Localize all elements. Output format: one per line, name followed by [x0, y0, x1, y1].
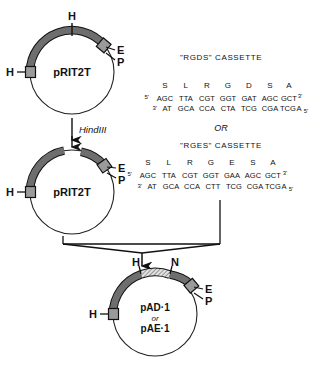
cassette-rgds-bottom-strand: 3' AT GCA CCA CTA TCG CGA TCG A 5': [153, 104, 309, 114]
plasmid-bottom-p-leader: [194, 293, 203, 299]
figure-plasmid-cassette-construction: H H E P pRIT2T HindIII H: [0, 0, 311, 366]
rges-top-codon-2: CGT: [182, 171, 198, 180]
rges-top-codon-1: TTA: [162, 171, 176, 180]
rgds-bot-codon-7: A: [296, 104, 301, 113]
bracket-v-right: [142, 244, 220, 253]
rgds-top-codon-1: TTA: [179, 94, 193, 103]
rgds-top-codon-3: GGT: [220, 94, 237, 103]
aa-rgds-0: S: [162, 81, 168, 90]
plasmid-bottom-name-2: pAE·1: [141, 323, 170, 334]
cassette-rges: "RGES" CASSETTE S L R G E S A 5' AGC TTA…: [128, 141, 294, 192]
plasmid-bottom: H N H E P pAD·1 or pAE·1: [89, 256, 212, 356]
plasmid-top-name: pRIT2T: [53, 66, 91, 78]
plasmid-top-label-p: P: [117, 56, 124, 68]
hindiii-digest-step: HindIII: [72, 118, 107, 140]
ligation-bracket: [63, 200, 220, 266]
aa-rgds-6: A: [286, 81, 292, 90]
cassette-rgds-top-strand: 5' AGC TTA CGT GGT GAT AGC GCT 3': [145, 93, 303, 103]
aa-rges-5: S: [250, 158, 256, 167]
aa-rgds-4: D: [246, 81, 252, 90]
rges-bot-codon-7: A: [281, 182, 286, 191]
rgds-bot-codon-4: TCG: [241, 104, 257, 113]
plasmid-mid-name: pRIT2T: [53, 186, 91, 198]
rges-bot-codon-5: CGA: [247, 182, 264, 191]
bracket-v-left: [63, 244, 142, 253]
rges-top-codon-4: GAA: [224, 171, 240, 180]
rgds-top-codon-0: AGC: [157, 94, 174, 103]
plasmid-bottom-label-e: E: [205, 283, 212, 295]
rges-top-codon-0: AGC: [140, 171, 157, 180]
rgds-top-codon-2: CGT: [199, 94, 215, 103]
rges-top-codon-3: GGT: [203, 171, 220, 180]
cassette-rges-bottom-strand: 3' AT GCA CCA CTT TCG CGA TCG A 5': [138, 182, 294, 192]
aa-rges-4: E: [229, 158, 235, 167]
plasmid-mid-label-e: E: [118, 162, 125, 174]
rges-top-prime-end: 3': [283, 170, 287, 176]
plasmid-top-label-e: E: [117, 44, 124, 56]
plasmid-bottom-label-h-left: H: [89, 308, 97, 320]
plasmid-bottom-name-or: or: [151, 314, 158, 323]
plasmid-bottom-name-1: pAD·1: [140, 302, 170, 313]
plasmid-bottom-h-site-box: [109, 309, 119, 320]
rgds-top-codon-5: AGC: [262, 94, 279, 103]
plasmid-bottom-label-h-top: H: [132, 256, 140, 268]
rgds-bot-codon-2: CCA: [199, 104, 215, 113]
rges-bot-codon-2: CCA: [184, 182, 200, 191]
plasmid-mid-label-h-left: H: [6, 186, 14, 198]
cassette-rges-title: "RGES" CASSETTE: [180, 141, 262, 150]
aa-rges-3: G: [208, 158, 215, 167]
rges-top-prime-start: 5': [128, 171, 132, 177]
rgds-bot-codon-1: GCA: [178, 104, 195, 113]
plasmid-mid-label-p: P: [118, 174, 125, 186]
rgds-top-codon-6: GCT: [281, 94, 297, 103]
rges-bot-codon-6: TCG: [265, 182, 281, 191]
plasmid-mid: H E P pRIT2T: [6, 136, 125, 234]
cassette-rges-top-strand: 5' AGC TTA CGT GGT GAA AGC GCT 3': [128, 170, 288, 180]
plasmid-bottom-label-p: P: [205, 295, 212, 307]
cassette-or-label: OR: [214, 123, 228, 133]
rgds-bot-codon-0: AT: [162, 104, 172, 113]
rgds-bot-codon-5: CGA: [262, 104, 279, 113]
rges-top-codon-5: AGC: [245, 171, 262, 180]
rges-bot-codon-1: GCA: [163, 182, 180, 191]
plasmid-bottom-cassette-insert: [141, 272, 170, 275]
rgds-top-prime-start: 5': [145, 94, 149, 100]
aa-rgds-1: L: [184, 81, 189, 90]
hindiii-label: HindIII: [79, 124, 107, 135]
plasmid-bottom-label-n: N: [171, 256, 179, 268]
rgds-bot-codon-6: TCG: [280, 104, 296, 113]
rgds-bot-codon-3: CTA: [221, 104, 236, 113]
rgds-top-prime-end: 3': [298, 93, 302, 99]
aa-rges-1: L: [167, 158, 172, 167]
aa-rgds-2: R: [204, 81, 210, 90]
plasmid-top-label-h-top: H: [68, 10, 76, 22]
aa-rgds-5: S: [267, 81, 273, 90]
plasmid-top-label-h-left: H: [6, 66, 14, 78]
plasmid-top: H H E P pRIT2T: [6, 10, 124, 114]
cassette-rgds-title: "RGDS" CASSETTE: [180, 53, 262, 62]
cassette-rgds-amino-acid-row: S L R G D S A: [162, 81, 292, 90]
rges-bot-codon-3: CTT: [206, 182, 221, 191]
rges-bot-codon-4: TCG: [226, 182, 242, 191]
rges-bottom-prime-end: 5': [289, 186, 293, 192]
plasmid-mid-h-site-box: [26, 187, 36, 198]
rges-bottom-prime-start: 3': [138, 183, 142, 189]
rges-bot-codon-0: AT: [147, 182, 157, 191]
aa-rges-2: R: [187, 158, 193, 167]
rges-top-codon-6: GCT: [265, 171, 281, 180]
aa-rges-6: A: [270, 158, 276, 167]
rgds-bottom-prime-end: 5': [304, 108, 308, 114]
cassette-rgds: "RGDS" CASSETTE S L R G D S A 5' AGC TTA…: [145, 53, 309, 114]
plasmid-top-h-site-box: [26, 67, 36, 78]
aa-rges-0: S: [145, 158, 151, 167]
rgds-top-codon-4: GAT: [241, 94, 256, 103]
aa-rgds-3: G: [225, 81, 232, 90]
rgds-bottom-prime-start: 3': [153, 105, 157, 111]
cassette-rges-amino-acid-row: S L R G E S A: [145, 158, 276, 167]
